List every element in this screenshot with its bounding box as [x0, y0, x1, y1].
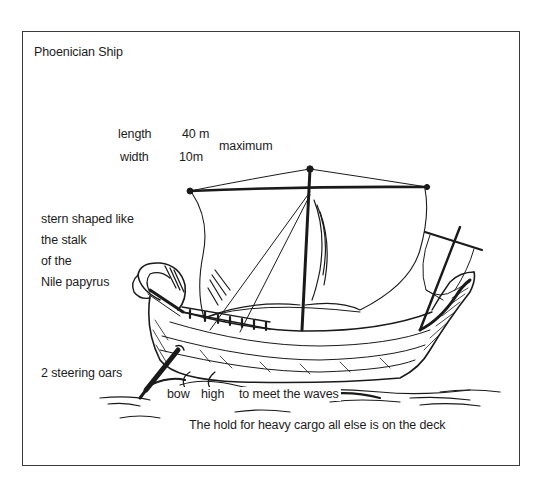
length-label: length: [118, 127, 151, 141]
width-value: 10m: [179, 150, 203, 164]
main-sail: [192, 193, 300, 318]
stern-annotation-line3: of the: [41, 254, 72, 268]
stern-annotation-line4: Nile papyrus: [41, 275, 109, 289]
bow-annotation-word3: to meet the waves: [237, 387, 341, 401]
stern-annotation-line1: stern shaped like: [41, 212, 134, 226]
length-value: 40 m: [182, 127, 209, 141]
stern-annotation-line2: the stalk: [41, 233, 87, 247]
diagram-title: Phoenician Ship: [34, 45, 123, 59]
bow-annotation-word1: bow: [165, 387, 192, 401]
hold-annotation: The hold for heavy cargo all else is on …: [189, 418, 445, 432]
bow-annotation-word2: high: [199, 387, 226, 401]
width-label: width: [120, 150, 149, 164]
steering-oars-annotation: 2 steering oars: [41, 366, 122, 380]
dimension-qualifier: maximum: [219, 139, 272, 153]
